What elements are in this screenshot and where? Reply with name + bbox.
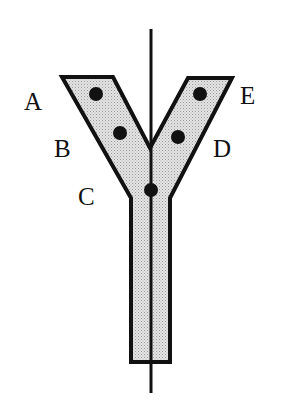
point-b-dot <box>113 126 127 140</box>
point-a-dot <box>89 87 103 101</box>
label-d: D <box>213 135 231 162</box>
point-e-dot <box>193 87 207 101</box>
label-e: E <box>240 82 255 109</box>
point-d-dot <box>171 130 185 144</box>
label-a: A <box>24 88 42 115</box>
y-shape-body <box>62 77 232 362</box>
point-c-dot <box>144 183 158 197</box>
label-c: C <box>78 183 95 210</box>
label-b: B <box>54 135 71 162</box>
y-shaped-symmetry-diagram: A B C D E <box>0 0 281 416</box>
